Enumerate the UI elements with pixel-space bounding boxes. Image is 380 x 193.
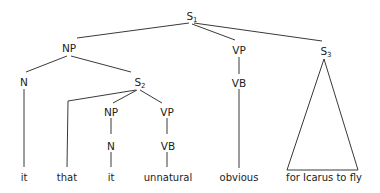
leaf-it-2: it [108,172,115,183]
syntax-tree-diagram: S1 NP N S2 NP N VP VB VP VB S3 it that i… [0,0,380,193]
node-np2: NP [104,106,118,118]
edge-np-n [26,56,67,72]
edge-s2-vp [140,90,162,103]
edge-np-s2 [71,56,131,72]
leaf-obvious: obvious [220,172,259,183]
tree-nodes: S1 NP N S2 NP N VP VB VP VB S3 [20,10,332,152]
node-np: NP [62,42,76,54]
node-vb2: VB [161,140,175,152]
edge-s1-np [77,23,189,38]
leaf-for-icarus-to-fly: for Icarus to fly [286,172,362,183]
node-n: N [20,76,28,88]
node-s3: S3 [320,45,331,59]
s3-triangle [287,59,358,170]
node-vp1: VP [232,44,246,56]
node-s1: S1 [186,10,197,24]
tree-leaves: it that it unnatural obvious for Icarus … [21,172,362,183]
node-vp2: VP [160,106,174,118]
leaf-unnatural: unnatural [144,172,192,183]
node-n2: N [107,140,115,152]
edge-s2-that [67,90,136,167]
tree-canvas: S1 NP N S2 NP N VP VB VP VB S3 it that i… [0,0,380,193]
node-vb1: VB [232,77,246,89]
leaf-that: that [57,172,77,183]
leaf-it-1: it [21,172,28,183]
node-s2: S2 [134,76,145,90]
edge-s1-vp [192,24,235,40]
